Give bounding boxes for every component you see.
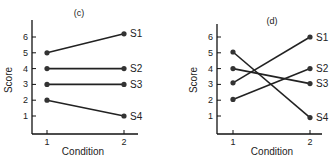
data-point xyxy=(230,80,235,85)
data-point xyxy=(307,81,312,86)
y-axis-label: Score xyxy=(188,67,199,94)
data-point xyxy=(44,66,49,71)
chart-panel-c: (c)12345612ConditionScoreS1S2S3S4 xyxy=(3,8,143,157)
y-tick-label: 1 xyxy=(208,111,213,121)
y-tick-label: 3 xyxy=(23,79,28,89)
data-point xyxy=(307,66,312,71)
data-point xyxy=(121,113,126,118)
data-point xyxy=(230,66,235,71)
series-label: S4 xyxy=(316,112,329,123)
y-tick-label: 3 xyxy=(208,79,213,89)
data-point xyxy=(121,31,126,36)
y-tick-label: 6 xyxy=(208,32,213,42)
x-tick-label: 1 xyxy=(230,137,235,147)
series-label: S1 xyxy=(316,32,329,43)
y-tick-label: 1 xyxy=(23,111,28,121)
series-line xyxy=(47,100,124,116)
series-label: S2 xyxy=(130,63,143,74)
data-point xyxy=(307,34,312,39)
series-s4: S4 xyxy=(44,98,142,122)
x-axis-label: Condition xyxy=(251,146,293,157)
series-label: S3 xyxy=(316,78,329,89)
chart-title: (c) xyxy=(74,8,85,18)
series-label: S2 xyxy=(316,63,329,74)
y-axis-label: Score xyxy=(3,67,14,94)
data-point xyxy=(121,82,126,87)
series-label: S3 xyxy=(130,79,143,90)
series-s2: S2 xyxy=(44,63,142,74)
x-tick-label: 1 xyxy=(44,137,49,147)
data-point xyxy=(230,97,235,102)
series-s4: S4 xyxy=(230,49,328,123)
y-tick-label: 4 xyxy=(23,64,28,74)
y-tick-label: 2 xyxy=(208,95,213,105)
y-tick-label: 6 xyxy=(23,32,28,42)
data-point xyxy=(44,50,49,55)
paired-line-charts: (c)12345612ConditionScoreS1S2S3S4(d)1234… xyxy=(0,0,329,165)
series-line xyxy=(233,52,310,118)
y-tick-label: 2 xyxy=(23,95,28,105)
chart-panel-d: (d)12345612ConditionScoreS1S2S3S4 xyxy=(188,16,329,157)
data-point xyxy=(307,115,312,120)
series-s3: S3 xyxy=(230,66,328,89)
y-tick-label: 5 xyxy=(208,48,213,58)
data-point xyxy=(44,82,49,87)
series-s2: S2 xyxy=(230,63,328,102)
y-tick-label: 5 xyxy=(23,48,28,58)
series-line xyxy=(47,34,124,53)
chart-title: (d) xyxy=(267,16,278,26)
data-point xyxy=(230,49,235,54)
series-label: S1 xyxy=(130,28,143,39)
series-label: S4 xyxy=(130,111,143,122)
series-s3: S3 xyxy=(44,79,142,90)
x-tick-label: 2 xyxy=(121,137,126,147)
data-point xyxy=(44,98,49,103)
x-axis-label: Condition xyxy=(62,146,104,157)
x-tick-label: 2 xyxy=(307,137,312,147)
series-s1: S1 xyxy=(44,28,142,55)
y-tick-label: 4 xyxy=(208,64,213,74)
data-point xyxy=(121,66,126,71)
